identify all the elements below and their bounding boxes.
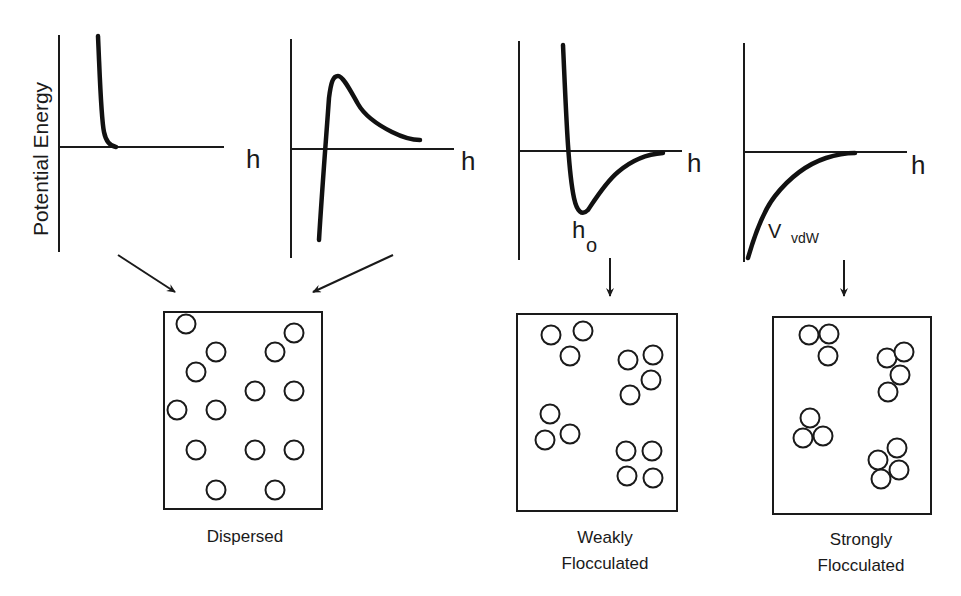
vdw-label: V — [768, 220, 782, 242]
particle-circle — [541, 405, 560, 424]
particle-circle — [536, 431, 555, 450]
h0-label: h — [572, 216, 585, 243]
particle-circle — [794, 429, 813, 448]
panel-label: Dispersed — [207, 527, 284, 546]
plot-electrostatic-barrier: h — [291, 39, 475, 258]
particle-circle — [618, 467, 637, 486]
arrow-icon — [313, 255, 393, 292]
h0-subscript: o — [586, 234, 597, 256]
particle-circle — [542, 326, 561, 345]
colloid-stability-diagram: Potential Energy hhhhohVvdW DispersedWea… — [0, 0, 961, 596]
particle-circle — [617, 442, 636, 461]
potential-curve — [98, 36, 116, 147]
vdw-subscript: vdW — [791, 230, 820, 246]
particle-panels: DispersedWeaklyFlocculatedStronglyFloccu… — [164, 312, 931, 575]
particle-circle — [207, 481, 226, 500]
particle-circle — [574, 322, 593, 341]
x-axis-label: h — [246, 144, 260, 174]
particle-circle — [879, 383, 898, 402]
particle-circle — [895, 343, 914, 362]
panel-label: Flocculated — [818, 556, 905, 575]
y-axis-label: Potential Energy — [29, 81, 52, 236]
particle-circle — [187, 363, 206, 382]
panel-strongly-flocculated: StronglyFlocculated — [773, 317, 931, 575]
particle-circle — [246, 382, 265, 401]
x-axis-label: h — [687, 148, 701, 178]
particle-circle — [561, 347, 580, 366]
particle-circle — [888, 439, 907, 458]
particle-circle — [644, 346, 663, 365]
particle-circle — [207, 401, 226, 420]
transition-arrows — [118, 255, 844, 296]
particle-circle — [285, 382, 304, 401]
particle-circle — [177, 315, 196, 334]
plot-van-der-waals: hVvdW — [744, 43, 925, 262]
particle-circle — [643, 442, 662, 461]
particle-circle — [285, 324, 304, 343]
panel-dispersed: Dispersed — [164, 312, 322, 546]
particle-circle — [890, 461, 909, 480]
potential-curve — [563, 45, 663, 213]
particle-circle — [814, 427, 833, 446]
panel-weakly-flocculated: WeaklyFlocculated — [517, 314, 677, 573]
particle-circle — [891, 366, 910, 385]
arrow-icon — [118, 255, 175, 292]
particle-circle — [561, 425, 580, 444]
potential-curve — [319, 76, 420, 240]
particle-circle — [800, 326, 819, 345]
particle-circle — [285, 441, 304, 460]
particle-circle — [644, 469, 663, 488]
particle-circle — [207, 343, 226, 362]
particle-circle — [642, 371, 661, 390]
particle-circle — [869, 451, 888, 470]
plot-secondary-minimum: hho — [519, 41, 701, 260]
particle-circle — [820, 325, 839, 344]
particle-circle — [266, 481, 285, 500]
x-axis-label: h — [461, 146, 475, 176]
particle-circle — [619, 351, 638, 370]
particle-circle — [621, 386, 640, 405]
x-axis-label: h — [911, 150, 925, 180]
panel-label: Flocculated — [562, 554, 649, 573]
particle-circle — [246, 441, 265, 460]
particle-circle — [819, 347, 838, 366]
potential-energy-plots: hhhhohVvdW — [59, 35, 925, 262]
particle-circle — [266, 343, 285, 362]
panel-label: Strongly — [830, 530, 893, 549]
panel-label: Weakly — [577, 528, 633, 547]
particle-circle — [801, 409, 820, 428]
particle-circle — [187, 441, 206, 460]
plot-steric-repulsion: h — [59, 35, 260, 252]
particle-circle — [168, 401, 187, 420]
particle-circle — [872, 470, 891, 489]
